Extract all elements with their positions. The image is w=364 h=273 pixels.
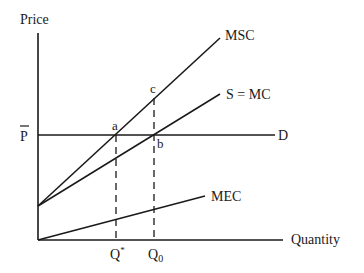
msc-curve xyxy=(38,38,220,206)
point-b-label: b xyxy=(157,136,164,151)
externality-diagram: Price Quantity D P MSC S = MC MEC a b c … xyxy=(0,0,364,273)
y-axis-label: Price xyxy=(20,12,49,27)
point-a-label: a xyxy=(112,118,118,133)
q-star-label: Q* xyxy=(110,245,125,262)
supply-label: S = MC xyxy=(226,87,270,102)
mec-curve xyxy=(38,196,205,240)
q0-label: Q0 xyxy=(148,247,163,264)
point-c-label: c xyxy=(150,81,156,96)
mec-label: MEC xyxy=(211,189,241,204)
price-label: P xyxy=(20,129,28,144)
supply-curve xyxy=(38,94,220,206)
demand-label: D xyxy=(278,128,288,143)
msc-label: MSC xyxy=(225,28,255,43)
x-axis-label: Quantity xyxy=(291,232,340,247)
